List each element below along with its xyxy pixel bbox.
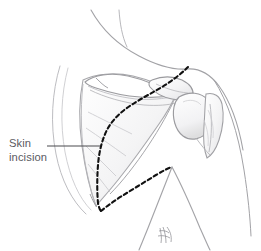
illustration-canvas: Skin incision: [0, 0, 261, 251]
skin-incision-label-line1: Skin: [9, 137, 31, 149]
shoulder-incision-illustration: Skin incision: [0, 0, 261, 251]
skin-incision-label-line2: incision: [9, 151, 47, 163]
